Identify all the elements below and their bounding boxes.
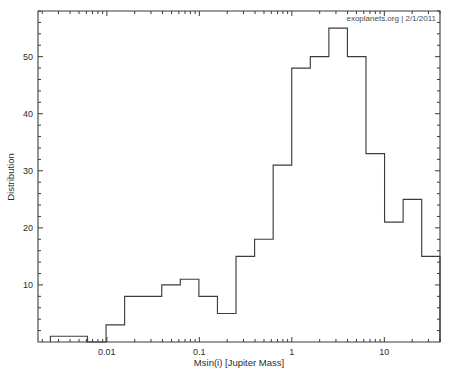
x-tick-label: 0.1 [193, 347, 206, 357]
y-tick-label: 30 [23, 166, 33, 176]
x-tick-label: 1 [289, 347, 294, 357]
distribution-histogram-chart: 0.010.1110 1020304050 Msin(i) [Jupiter M… [0, 0, 460, 377]
x-axis-tick-labels: 0.010.1110 [98, 347, 389, 357]
x-tick-label: 0.01 [98, 347, 116, 357]
plot-frame [38, 11, 440, 342]
y-axis-title: Distribution [5, 153, 16, 201]
y-tick-label: 50 [23, 52, 33, 62]
credit-annotation: exoplanets.org | 2/1/2011 [346, 14, 436, 23]
histogram-figure: 0.010.1110 1020304050 Msin(i) [Jupiter M… [0, 0, 460, 377]
x-axis-title: Msin(i) [Jupiter Mass] [194, 357, 284, 368]
y-tick-label: 40 [23, 109, 33, 119]
y-tick-label: 20 [23, 223, 33, 233]
y-axis-tick-labels: 1020304050 [23, 52, 33, 290]
x-tick-label: 10 [379, 347, 389, 357]
y-tick-label: 10 [23, 280, 33, 290]
